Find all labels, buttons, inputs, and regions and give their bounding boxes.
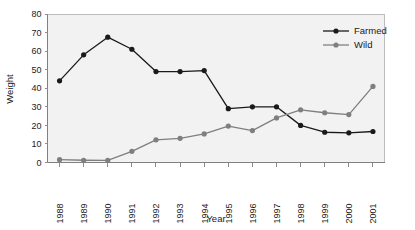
y-tick-label: 80 (31, 9, 41, 19)
legend-label-wild: Wild (354, 39, 372, 50)
data-point[interactable] (202, 131, 207, 136)
data-point[interactable] (298, 123, 303, 128)
legend-marker-wild-icon (333, 42, 338, 47)
chart-canvas: 01020304050607080 1988198919901991199219… (0, 0, 415, 230)
y-tick-label: 0 (36, 158, 41, 168)
data-point[interactable] (81, 52, 86, 57)
data-point[interactable] (346, 130, 351, 135)
y-tick-label: 50 (31, 65, 41, 75)
data-point[interactable] (346, 112, 351, 117)
x-tick-label: 1989 (79, 204, 89, 224)
y-tick-label: 10 (31, 139, 41, 149)
data-point[interactable] (105, 35, 110, 40)
data-point[interactable] (129, 149, 134, 154)
data-point[interactable] (153, 137, 158, 142)
data-point[interactable] (57, 157, 62, 162)
x-tick-label: 1996 (248, 204, 258, 224)
data-point[interactable] (298, 107, 303, 112)
y-tick-label: 70 (31, 28, 41, 38)
x-tick-label: 1997 (272, 204, 282, 224)
x-axis-title: Year (206, 213, 225, 224)
y-tick-label: 40 (31, 83, 41, 93)
x-tick-label: 1999 (320, 204, 330, 224)
data-point[interactable] (226, 124, 231, 129)
data-point[interactable] (105, 158, 110, 163)
data-point[interactable] (129, 47, 134, 52)
y-tick-label: 60 (31, 46, 41, 56)
data-point[interactable] (322, 110, 327, 115)
data-point[interactable] (370, 129, 375, 134)
data-point[interactable] (153, 69, 158, 74)
x-tick-label: 1992 (151, 204, 161, 224)
y-axis-ticks: 01020304050607080 (31, 9, 47, 168)
x-tick-label: 1993 (175, 204, 185, 224)
x-tick-label: 1988 (55, 204, 65, 224)
data-point[interactable] (226, 106, 231, 111)
data-point[interactable] (250, 128, 255, 133)
x-tick-label: 2001 (368, 204, 378, 224)
x-tick-label: 1990 (103, 204, 113, 224)
x-tick-label: 2000 (344, 204, 354, 224)
x-tick-label: 1998 (296, 204, 306, 224)
data-point[interactable] (177, 136, 182, 141)
x-tick-label: 1991 (127, 204, 137, 224)
legend-marker-farmed-icon (333, 28, 338, 33)
data-point[interactable] (274, 104, 279, 109)
y-tick-label: 20 (31, 121, 41, 131)
data-point[interactable] (322, 130, 327, 135)
data-point[interactable] (57, 78, 62, 83)
data-point[interactable] (202, 68, 207, 73)
data-point[interactable] (274, 115, 279, 120)
y-tick-label: 30 (31, 102, 41, 112)
data-point[interactable] (177, 69, 182, 74)
data-point[interactable] (370, 84, 375, 89)
data-point[interactable] (250, 104, 255, 109)
y-axis-title: Weight (4, 74, 15, 104)
line-chart: 01020304050607080 1988198919901991199219… (0, 0, 415, 230)
legend-label-farmed: Farmed (354, 25, 387, 36)
data-point[interactable] (81, 158, 86, 163)
